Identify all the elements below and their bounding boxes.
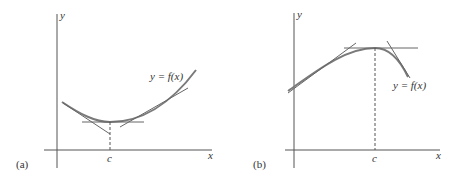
panel-label: (a) [16,158,29,171]
x-axis-label: x [435,149,441,161]
figure: y x c (a) y = f(x) y x c (b) y = f(x) [0,0,454,180]
curve [288,48,408,91]
curve-label: y = f(x) [149,70,183,83]
curve-label: y = f(x) [392,79,426,92]
right-tangent [120,88,188,127]
panel-b: y x c (b) y = f(x) [253,8,441,171]
right-tangent [387,41,410,78]
left-tangent [288,43,356,93]
c-label: c [107,152,112,164]
x-axis-label: x [207,149,213,161]
c-label: c [372,152,377,164]
y-axis-label: y [296,8,302,20]
y-axis-label: y [59,9,65,21]
panel-label: (b) [253,158,266,171]
left-tangent [63,103,110,134]
panel-a: y x c (a) y = f(x) [16,9,213,171]
